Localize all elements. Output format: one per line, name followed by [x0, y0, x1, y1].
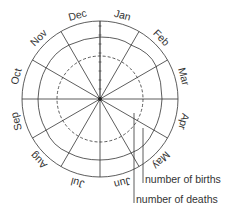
- month-label-nov: Nov: [27, 26, 49, 48]
- month-label-jan: Jan: [113, 7, 133, 23]
- polar-diagram: JanFebMarAprMayJunJulAugSepOctNovDec num…: [0, 0, 242, 215]
- month-label-may: May: [150, 149, 173, 172]
- month-label-sep: Sep: [7, 111, 23, 132]
- month-label-aug: Aug: [27, 150, 49, 172]
- spoke: [100, 32, 139, 100]
- legend-deaths: number of deaths: [136, 193, 218, 205]
- month-label-oct: Oct: [8, 67, 24, 86]
- spoke: [61, 99, 100, 167]
- spoke: [61, 32, 100, 100]
- spoke: [33, 60, 101, 99]
- month-label-mar: Mar: [176, 66, 192, 87]
- spoke: [100, 99, 139, 167]
- spoke: [100, 60, 168, 99]
- month-label-jun: Jun: [113, 175, 133, 191]
- legend-births: number of births: [145, 173, 221, 185]
- month-label-feb: Feb: [151, 27, 172, 48]
- month-label-dec: Dec: [67, 7, 88, 23]
- month-label-jul: Jul: [69, 176, 85, 191]
- month-label-apr: Apr: [176, 112, 192, 131]
- center-point: [98, 97, 102, 101]
- spoke: [33, 99, 101, 138]
